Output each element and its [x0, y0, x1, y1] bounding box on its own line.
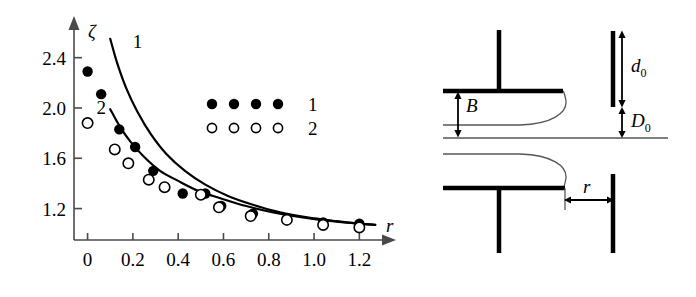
diagram-panel: B d0 D0	[400, 0, 696, 297]
x-tick-label: 0	[83, 249, 93, 270]
x-tick-label: 1.0	[302, 249, 326, 270]
data-point-series-2	[123, 158, 133, 168]
r-label: r	[583, 176, 591, 197]
legend-marker-1	[207, 99, 217, 109]
data-point-series-2	[318, 220, 328, 230]
x-tick-label: 1.2	[347, 249, 371, 270]
curve-label-2: 2	[96, 97, 106, 118]
data-point-series-1	[96, 89, 106, 99]
y-tick-label: 2.4	[42, 48, 66, 69]
d0-label: d0	[631, 55, 647, 80]
data-point-series-1	[130, 142, 140, 152]
data-point-series-2	[245, 211, 255, 221]
x-axis-label: r	[386, 215, 394, 236]
x-tick-label: 0.8	[257, 249, 281, 270]
lower-jet-profile	[443, 154, 566, 188]
legend-marker-1	[251, 99, 261, 109]
data-point-series-1	[178, 188, 188, 198]
fit-curve-1	[110, 39, 375, 225]
legend-marker-2	[229, 123, 238, 132]
D0-dimension-arrow	[618, 107, 625, 138]
data-point-series-2	[214, 202, 224, 212]
curve-label-1: 1	[133, 31, 143, 52]
x-axis-arrowhead	[382, 235, 396, 246]
x-tick-label: 0.6	[212, 249, 236, 270]
x-tick-label: 0.4	[166, 249, 190, 270]
figure-root: 00.20.40.60.81.01.2 1.21.62.02.4 ζ r 12 …	[0, 0, 696, 297]
chart-panel: 00.20.40.60.81.01.2 1.21.62.02.4 ζ r 12 …	[0, 0, 400, 297]
data-points-group	[82, 66, 364, 232]
x-tick-marks	[88, 233, 360, 240]
diagram-svg: B d0 D0	[400, 0, 696, 297]
d0-dimension-arrow	[618, 31, 625, 108]
y-tick-marks	[74, 58, 82, 209]
chart-svg: 00.20.40.60.81.01.2 1.21.62.02.4 ζ r 12 …	[0, 0, 400, 297]
curve-labels-group: 12	[96, 31, 142, 119]
fit-curves-group	[110, 39, 375, 225]
chart-legend: 12	[207, 94, 318, 139]
y-tick-label: 1.6	[42, 148, 66, 169]
x-tick-labels: 00.20.40.60.81.01.2	[83, 249, 371, 270]
data-point-series-2	[159, 182, 169, 192]
b-label: B	[466, 95, 478, 116]
Dcap0-label: D0	[630, 110, 651, 135]
r-dimension-arrow	[564, 196, 614, 203]
data-point-series-1	[114, 124, 124, 134]
data-point-series-2	[144, 174, 154, 184]
legend-label-1: 1	[308, 94, 318, 115]
legend-marker-2	[273, 123, 282, 132]
data-point-series-2	[82, 118, 92, 128]
x-tick-label: 0.2	[121, 249, 145, 270]
legend-marker-1	[229, 99, 239, 109]
upper-jet-profile	[443, 91, 566, 125]
y-tick-label: 2.0	[42, 98, 66, 119]
data-point-series-2	[354, 222, 364, 232]
y-axis-arrowhead	[69, 16, 80, 30]
y-axis-label: ζ	[88, 21, 97, 42]
legend-label-2: 2	[308, 118, 318, 139]
b-dimension-arrow	[454, 92, 461, 138]
data-point-series-2	[110, 144, 120, 154]
data-point-series-1	[82, 66, 92, 76]
legend-marker-2	[207, 123, 216, 132]
data-point-series-2	[196, 190, 206, 200]
data-point-series-2	[282, 215, 292, 225]
y-tick-label: 1.2	[42, 199, 66, 220]
legend-marker-1	[273, 99, 283, 109]
y-tick-labels: 1.21.62.02.4	[42, 48, 66, 220]
legend-marker-2	[251, 123, 260, 132]
